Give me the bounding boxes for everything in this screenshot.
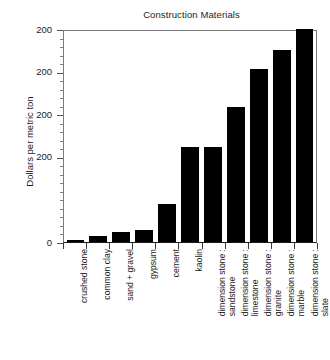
bar-slot (179, 31, 202, 242)
x-axis-category-label: dimension stone :slate (311, 249, 330, 316)
bar-slot (133, 31, 156, 242)
x-label-slot: crushed stone (63, 249, 86, 357)
bar[interactable] (158, 204, 176, 242)
y-tick-label: 200 (12, 24, 52, 35)
x-label-slot: dimension stone :sandstone (202, 249, 225, 357)
x-label-slot: sand + gravel (109, 249, 132, 357)
bar[interactable] (227, 107, 245, 242)
plot-area (63, 30, 317, 243)
bar-slot (270, 31, 293, 242)
y-tick-label: 200 (12, 151, 52, 162)
bar[interactable] (181, 147, 199, 242)
bar[interactable] (112, 232, 130, 242)
x-label-slot: kaolin (178, 249, 201, 357)
bar-slot (110, 31, 133, 242)
x-label-slot: dimension stone :slate (294, 249, 317, 357)
bar-slot (224, 31, 247, 242)
bar-slot (156, 31, 179, 242)
x-label-slot: dimension stone :granite (248, 249, 271, 357)
bar[interactable] (67, 240, 85, 242)
bar-slot (247, 31, 270, 242)
x-label-line-2: slate (320, 249, 330, 316)
y-axis-label: Dollars per metric ton (24, 67, 35, 217)
y-tick-label: 200 (12, 66, 52, 77)
bar[interactable] (296, 29, 314, 242)
bar-slot (64, 31, 87, 242)
chart-title: Construction Materials (60, 9, 323, 20)
x-label-line-1: dimension stone : (310, 249, 320, 316)
x-label-slot: common clay (86, 249, 109, 357)
bar-series (64, 31, 316, 242)
bar-slot (87, 31, 110, 242)
bar[interactable] (250, 69, 268, 242)
x-label-slot: cement (155, 249, 178, 357)
bar[interactable] (89, 236, 107, 242)
bar[interactable] (273, 50, 291, 242)
y-tick-label: 0 (12, 237, 52, 248)
y-tick-label: 200 (12, 109, 52, 120)
x-label-slot: gypsum (132, 249, 155, 357)
bar-slot (293, 31, 316, 242)
x-axis-labels: crushed stonecommon claysand + gravelgyp… (63, 249, 317, 357)
x-label-slot: dimension stone :limestone (225, 249, 248, 357)
bar[interactable] (135, 230, 153, 242)
x-label-slot: dimension stone :marble (271, 249, 294, 357)
bar[interactable] (204, 147, 222, 242)
bar-slot (201, 31, 224, 242)
